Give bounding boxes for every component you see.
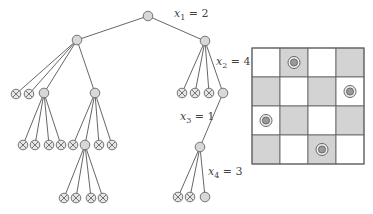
edge-label-x3: x3 = 1 (180, 111, 215, 125)
tree-node (39, 88, 49, 98)
tree-edge (200, 147, 205, 197)
tree-edge (44, 40, 77, 93)
queen-icon (344, 86, 356, 98)
tree-edge (182, 41, 205, 93)
tree-node (200, 192, 210, 202)
tree-edge (77, 40, 95, 93)
tree-node (200, 36, 210, 46)
tree-edge (190, 147, 200, 197)
dead-end-icon (56, 140, 66, 150)
edge-label-x2: x2 = 4 (216, 56, 251, 70)
tree-edge (23, 93, 44, 145)
tree-edges (16, 16, 223, 198)
tree-node (143, 11, 153, 21)
dead-end-icon (185, 192, 195, 202)
tree-node (80, 140, 90, 150)
tree-edge (77, 16, 148, 40)
dead-end-icon (94, 140, 104, 150)
dead-end-icon (107, 140, 117, 150)
dead-end-icon (204, 88, 214, 98)
diagram-stage: x1 = 2x2 = 4x3 = 1x4 = 3 (0, 0, 373, 214)
dead-end-icon (177, 88, 187, 98)
queen-icon (288, 57, 300, 69)
tree-node (195, 142, 205, 152)
board-cell (336, 106, 364, 135)
tree-edge (16, 40, 77, 94)
edge-label-x4: x4 = 3 (208, 166, 243, 180)
dead-end-icon (24, 89, 34, 99)
tree-edge (29, 40, 77, 94)
tree-edge (95, 93, 99, 145)
search-tree-and-board (0, 0, 373, 214)
dead-end-icon (44, 140, 54, 150)
dead-end-icon (98, 193, 108, 203)
queen-icon (260, 115, 272, 127)
tree-edge (85, 93, 95, 145)
tree-edge (76, 145, 85, 198)
board-cell (308, 48, 336, 77)
dead-end-icon (68, 140, 78, 150)
tree-node (90, 88, 100, 98)
board-cell (280, 135, 308, 164)
tree-edge (178, 147, 200, 197)
dead-end-icon (86, 193, 96, 203)
tree-edge (64, 145, 85, 198)
edge-label-x1: x1 = 2 (174, 8, 209, 22)
tree-node (72, 35, 82, 45)
board-cell (308, 77, 336, 106)
board-cell (252, 48, 280, 77)
dead-end-icon (71, 193, 81, 203)
tree-edge (35, 93, 44, 145)
board-cell (336, 135, 364, 164)
tree-nodes (11, 11, 228, 203)
board-cell (252, 77, 280, 106)
board-cell (280, 106, 308, 135)
tree-node (218, 88, 228, 98)
board-cell (308, 106, 336, 135)
dead-end-icon (190, 88, 200, 98)
tree-edge (195, 41, 205, 93)
dead-end-icon (30, 140, 40, 150)
board-cell (252, 135, 280, 164)
dead-end-icon (11, 89, 21, 99)
queen-icon (316, 144, 328, 156)
dead-end-icon (18, 140, 28, 150)
dead-end-icon (59, 193, 69, 203)
tree-edge (73, 93, 95, 145)
dead-end-icon (173, 192, 183, 202)
board-cell (336, 48, 364, 77)
chess-board (252, 48, 364, 164)
tree-edge (95, 93, 112, 145)
tree-edge (205, 41, 209, 93)
board-cell (280, 77, 308, 106)
